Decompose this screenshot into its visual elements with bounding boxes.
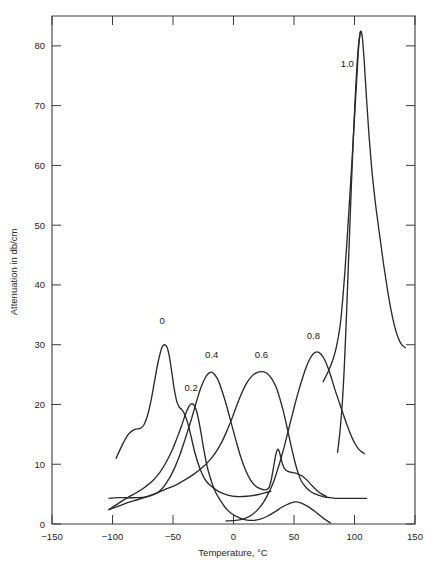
data-curve-1.0-lower-leg [338, 32, 361, 453]
data-curve-0.4 [109, 372, 327, 498]
y-tick-label: 60 [34, 160, 45, 171]
attenuation-vs-temperature-figure: 01020304050607080−150−100−50050100150 00… [0, 0, 443, 570]
series-label-0.6: 0.6 [255, 349, 268, 360]
plot-frame [52, 16, 415, 524]
x-tick-label: −150 [41, 531, 62, 542]
data-curves [109, 31, 405, 523]
y-tick-label: 10 [34, 459, 45, 470]
y-tick-label: 30 [34, 339, 45, 350]
y-tick-label: 40 [34, 279, 45, 290]
series-labels: 00.20.40.60.81.0 [159, 58, 353, 393]
x-tick-label: −100 [102, 531, 123, 542]
y-tick-label: 70 [34, 100, 45, 111]
x-tick-label: 100 [347, 531, 363, 542]
y-tick-label: 20 [34, 399, 45, 410]
x-tick-label: 150 [407, 531, 423, 542]
data-curve-0.6 [109, 372, 367, 510]
series-label-0: 0 [159, 315, 164, 326]
series-label-0.4: 0.4 [205, 349, 218, 360]
series-label-0.2: 0.2 [185, 382, 198, 393]
chart-canvas: 01020304050607080−150−100−50050100150 00… [0, 0, 443, 570]
y-tick-label: 80 [34, 40, 45, 51]
y-tick-label: 0 [40, 519, 45, 530]
x-tick-label: −50 [165, 531, 181, 542]
x-tick-label: 0 [231, 531, 236, 542]
y-tick-label: 50 [34, 220, 45, 231]
series-label-1.0: 1.0 [341, 58, 354, 69]
data-curve-1.0 [323, 31, 405, 382]
data-curve-0.2 [109, 404, 330, 523]
x-tick-label: 50 [289, 531, 300, 542]
axis-ticks [52, 16, 415, 524]
axis-tick-labels: 01020304050607080−150−100−50050100150 [34, 40, 423, 542]
x-axis-title: Temperature, °C [198, 547, 267, 558]
series-label-0.8: 0.8 [307, 330, 320, 341]
y-axis-title: Attenuation in db/cm [8, 229, 19, 316]
